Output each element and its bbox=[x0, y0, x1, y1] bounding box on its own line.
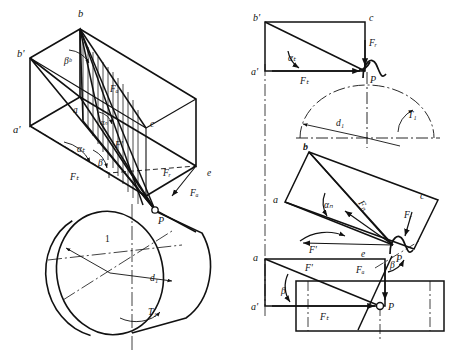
force-label-fr-top: Fᵣ bbox=[368, 38, 377, 48]
angle-label-alpha-n-mid: αₙ bbox=[324, 200, 333, 210]
front-projection-dimension bbox=[303, 110, 413, 146]
angle-label-beta-left: β bbox=[280, 286, 286, 296]
vertex-label-a-mid: a bbox=[273, 194, 278, 205]
angle-label-beta-right: β bbox=[389, 260, 395, 270]
vertex-label-a-prime-bot: a' bbox=[251, 301, 259, 312]
point-label-p-bot: P bbox=[387, 301, 394, 312]
vertex-label-b-prime: b' bbox=[17, 48, 25, 59]
force-label-f-prime-mid: F' bbox=[308, 245, 318, 255]
point-label-p-top: P bbox=[369, 74, 376, 85]
force-label-fr-mid: Fᵣ bbox=[403, 210, 412, 220]
vertex-label-a-prime: a' bbox=[13, 124, 21, 135]
vertex-label-a: a bbox=[73, 105, 78, 115]
vertex-label-c: c bbox=[150, 119, 155, 129]
cylinder-labels: P 1 d₁ T₁ bbox=[105, 215, 164, 317]
cylinder-centerlines bbox=[48, 204, 182, 352]
angle-label-beta-b: βᵇ bbox=[63, 56, 73, 66]
angle-label-alpha-t-top: αₜ bbox=[288, 53, 296, 63]
point-p-marker-iso bbox=[152, 207, 158, 213]
force-label-fr-iso: Fᵣ bbox=[162, 168, 171, 178]
part-number-label: 1 bbox=[105, 234, 110, 244]
figure-canvas: b b' a a' c e βᵇ αₜ β αₙ Fₐ F' Fₜ Fᵣ Fₐ … bbox=[0, 0, 454, 358]
torque-label-t1-iso: T₁ bbox=[148, 307, 157, 317]
vertex-label-c-top: c bbox=[369, 12, 374, 23]
gear-cylinder-body bbox=[35, 201, 211, 344]
top-projection-arrows bbox=[272, 260, 404, 306]
vertex-label-c-mid: c bbox=[420, 190, 425, 201]
point-label-p-mid: P bbox=[395, 253, 402, 264]
torque-label-t1-top: T₁ bbox=[408, 110, 417, 120]
force-label-f-prime-bot: F' bbox=[304, 263, 314, 273]
semicircle-pitch bbox=[296, 72, 440, 148]
diameter-label-d1-iso: d₁ bbox=[150, 273, 158, 283]
angle-label-beta: β bbox=[97, 158, 103, 168]
force-label-ft-iso: Fₜ bbox=[69, 172, 79, 182]
vertex-label-e: e bbox=[207, 168, 211, 178]
vertex-label-a-bot: a bbox=[253, 252, 258, 263]
engineering-drawing: b b' a a' c e βᵇ αₜ β αₙ Fₐ F' Fₜ Fᵣ Fₐ … bbox=[0, 0, 454, 358]
force-label-fn-mid: Fₙ bbox=[356, 198, 370, 213]
front-projection-rect bbox=[265, 22, 365, 71]
force-plane-outline bbox=[30, 58, 155, 210]
force-label-fa-edge: Fₐ bbox=[189, 188, 199, 198]
vertex-label-b-prime-top: b' bbox=[253, 12, 261, 23]
point-p-marker-bottom bbox=[377, 303, 384, 310]
point-label-p-iso: P bbox=[157, 215, 164, 226]
force-label-fa-iso: Fₐ bbox=[109, 84, 119, 94]
vertex-label-b: b bbox=[78, 8, 83, 19]
vertex-label-e-bot: e bbox=[361, 249, 365, 259]
diameter-label-d1-top: d₁ bbox=[336, 118, 344, 128]
top-projection-rects bbox=[265, 259, 444, 331]
vertex-label-a-prime-top: a' bbox=[251, 66, 259, 77]
top-projection-labels: a a' e β β F' Fₐ Fₜ P bbox=[251, 249, 395, 322]
force-label-ft-top: Fₜ bbox=[299, 76, 309, 86]
isometric-labels: b b' a a' c e βᵇ αₜ β αₙ Fₐ F' Fₜ Fᵣ Fₐ bbox=[13, 8, 211, 198]
angle-label-alpha-t: αₜ bbox=[77, 144, 85, 154]
force-label-ft-bot: Fₜ bbox=[319, 312, 329, 322]
rotated-plane-labels: b a c αₙ Fₙ Fᵣ F' P bbox=[273, 141, 425, 264]
force-label-f-prime-iso: F' bbox=[114, 140, 124, 150]
force-label-fa-bot: Fₐ bbox=[355, 265, 365, 275]
vertex-label-b-mid: b bbox=[303, 141, 308, 152]
force-fan-lines bbox=[80, 29, 155, 210]
angle-label-alpha-n: αₙ bbox=[100, 117, 108, 127]
front-projection-arrows bbox=[272, 40, 365, 71]
